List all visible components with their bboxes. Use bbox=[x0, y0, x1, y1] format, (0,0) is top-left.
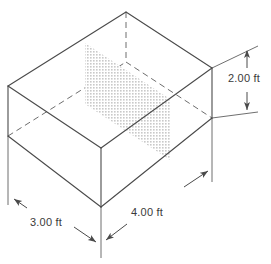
cross-section-plane bbox=[85, 43, 170, 160]
dimension-arrow-depth-upper bbox=[14, 199, 27, 208]
edge-top-back-right bbox=[126, 12, 212, 68]
figure-container: 2.00 ft 3.00 ft 4.00 ft bbox=[0, 0, 271, 264]
dimension-arrow-width-upper bbox=[184, 171, 208, 187]
dimension-arrow-width-lower bbox=[106, 224, 127, 240]
extension-line-height-bottom bbox=[212, 112, 258, 118]
dimension-label-depth: 3.00 ft bbox=[30, 216, 62, 228]
dimension-label-height: 2.00 ft bbox=[228, 72, 260, 84]
edge-bottom-left-front bbox=[8, 136, 101, 207]
dimension-arrow-depth-lower bbox=[74, 227, 96, 242]
cross-section-fill bbox=[85, 43, 170, 160]
dimension-label-width: 4.00 ft bbox=[131, 206, 163, 218]
extension-line-height-top bbox=[212, 46, 258, 68]
